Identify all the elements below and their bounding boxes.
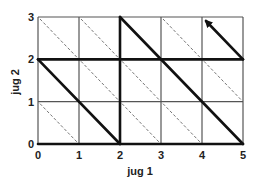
- x-tick-5: 5: [240, 150, 246, 161]
- y-tick-0: 0: [24, 139, 34, 150]
- y-tick-1: 1: [24, 97, 34, 108]
- x-axis-label: jug 1: [127, 165, 153, 177]
- x-tick-1: 1: [76, 150, 82, 161]
- y-axis-label: jug 2: [9, 69, 21, 95]
- x-tick-2: 2: [117, 150, 123, 161]
- dashed-diagonal: [81, 61, 118, 99]
- dashed-diagonal: [163, 19, 200, 57]
- dashed-diagonal: [40, 19, 77, 57]
- x-tick-3: 3: [158, 150, 164, 161]
- dashed-diagonal: [204, 61, 241, 99]
- dashed-diagonal: [122, 104, 159, 142]
- y-tick-2: 2: [24, 54, 34, 65]
- path-segment: [120, 17, 243, 144]
- dashed-diagonal: [122, 61, 159, 99]
- x-tick-0: 0: [35, 150, 41, 161]
- dashed-diagonal: [40, 104, 77, 142]
- dashed-diagonal: [81, 19, 118, 57]
- y-tick-3: 3: [24, 12, 34, 23]
- x-tick-4: 4: [199, 150, 205, 161]
- path-arrow: [206, 21, 243, 59]
- dashed-diagonal: [163, 104, 200, 142]
